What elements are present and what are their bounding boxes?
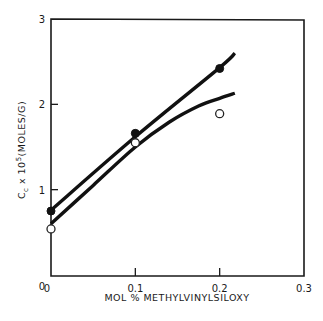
- y-axis-ticks: 0123: [39, 14, 58, 292]
- open-data-point: [131, 139, 139, 147]
- lower-fit-curve: [51, 93, 235, 224]
- open-data-point: [47, 225, 55, 233]
- y-axis-title: Cc x 105(MOLES/G): [15, 101, 30, 199]
- x-tick-label: 0: [44, 283, 50, 294]
- y-label-mid: x 10: [16, 161, 27, 187]
- filled-data-point: [131, 129, 139, 137]
- chart: 0123 00.10.20.3 MOL % METHYLVINYLSILOXY …: [0, 0, 323, 321]
- y-tick-label: 2: [39, 99, 45, 110]
- filled-data-point: [47, 207, 55, 215]
- x-axis-title: MOL % METHYLVINYLSILOXY: [104, 292, 249, 303]
- x-tick-label: 0.3: [296, 283, 312, 294]
- plot-frame: [51, 19, 304, 276]
- y-label-base: C: [16, 192, 27, 199]
- fit-curves: [51, 53, 235, 224]
- x-axis-ticks: 00.10.20.3: [44, 268, 312, 294]
- y-tick-label: 1: [39, 185, 45, 196]
- filled-data-point: [216, 64, 224, 72]
- upper-fit-line: [51, 53, 235, 210]
- open-data-point: [216, 110, 224, 118]
- y-tick-label: 3: [39, 14, 45, 25]
- y-label-unit: (MOLES/G): [16, 101, 27, 156]
- svg-text:Cc x 105(MOLES/G): Cc x 105(MOLES/G): [15, 101, 30, 199]
